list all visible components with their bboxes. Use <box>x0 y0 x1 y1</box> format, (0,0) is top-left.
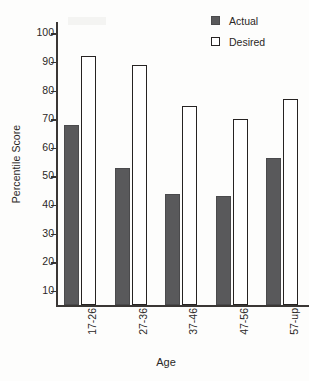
bar-actual-57-up <box>266 158 281 305</box>
legend-swatch-open-square-icon <box>211 37 220 46</box>
legend-label: Actual <box>229 15 258 27</box>
chart-legend: ActualDesired <box>211 12 303 54</box>
bar-actual-37-46 <box>165 194 180 305</box>
bar-actual-27-36 <box>115 168 130 305</box>
bar-chart-figure: Percentile Score 102030405060708090100 1… <box>0 0 309 381</box>
legend-swatch-filled-square-icon <box>211 16 220 25</box>
bar-desired-57-up <box>283 99 298 305</box>
y-tick-label: 30 <box>42 227 54 239</box>
bar-series-container <box>56 22 309 305</box>
y-tick-label: 70 <box>42 112 54 124</box>
bar-desired-17-26 <box>81 56 96 305</box>
y-axis-title: Percentile Score <box>10 94 22 234</box>
bar-desired-47-56 <box>233 119 248 305</box>
bar-actual-17-26 <box>64 125 79 305</box>
bar-desired-37-46 <box>182 106 197 305</box>
x-axis-tick-labels: 17-2627-3637-4647-5657-up <box>56 308 309 360</box>
y-tick-label: 100 <box>36 26 54 38</box>
bar-desired-27-36 <box>132 65 147 305</box>
y-tick-label: 60 <box>42 141 54 153</box>
y-tick-label: 80 <box>42 84 54 96</box>
legend-label: Desired <box>229 36 265 48</box>
x-tick-label-57-up: 57-up <box>288 308 300 364</box>
x-axis-line <box>56 305 309 307</box>
x-axis-title: Age <box>56 356 276 368</box>
legend-item-desired: Desired <box>211 33 303 50</box>
legend-item-actual: Actual <box>211 12 303 29</box>
y-tick-label: 10 <box>42 284 54 296</box>
y-tick-label: 90 <box>42 55 54 67</box>
y-tick-label: 40 <box>42 198 54 210</box>
plot-area: 102030405060708090100 <box>56 22 252 305</box>
y-tick-label: 50 <box>42 169 54 181</box>
bar-actual-47-56 <box>216 196 231 305</box>
y-tick-label: 20 <box>42 255 54 267</box>
